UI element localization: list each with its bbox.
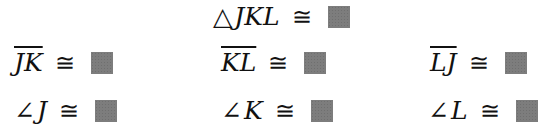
triangle-symbol: △	[213, 4, 232, 29]
triangle-label: JKL	[234, 4, 279, 29]
congruent-symbol: ≅	[268, 51, 288, 75]
answer-blank-box[interactable]	[516, 100, 538, 122]
answer-blank-box[interactable]	[91, 52, 113, 74]
answer-blank-box[interactable]	[328, 6, 350, 28]
angle-symbol: ∠	[221, 98, 242, 123]
congruent-symbol: ≅	[275, 99, 295, 123]
segment-label: LJ	[430, 50, 457, 75]
congruent-symbol: ≅	[480, 99, 500, 123]
angle-congruence-statement-k: ∠ K ≅	[221, 98, 333, 123]
congruent-symbol: ≅	[55, 51, 75, 75]
angle-label: L	[451, 98, 468, 123]
angle-symbol: ∠	[14, 98, 35, 123]
answer-blank-box[interactable]	[95, 100, 117, 122]
segment-label: KL	[221, 50, 256, 75]
side-congruence-statement-kl: KL ≅	[221, 50, 326, 75]
angle-label: J	[37, 98, 47, 123]
answer-blank-box[interactable]	[505, 52, 527, 74]
angle-label: K	[244, 98, 263, 123]
answer-blank-box[interactable]	[304, 52, 326, 74]
triangle-congruence-statement: △ JKL ≅	[213, 4, 350, 29]
congruent-symbol: ≅	[469, 51, 489, 75]
angle-congruence-statement-l: ∠ L ≅	[428, 98, 538, 123]
segment-label: JK	[14, 50, 43, 75]
congruent-symbol: ≅	[59, 99, 79, 123]
side-congruence-statement-lj: LJ ≅	[430, 50, 527, 75]
congruent-symbol: ≅	[292, 5, 312, 29]
angle-congruence-statement-j: ∠ J ≅	[14, 98, 117, 123]
angle-symbol: ∠	[428, 98, 449, 123]
side-congruence-statement-jk: JK ≅	[14, 50, 113, 75]
answer-blank-box[interactable]	[311, 100, 333, 122]
